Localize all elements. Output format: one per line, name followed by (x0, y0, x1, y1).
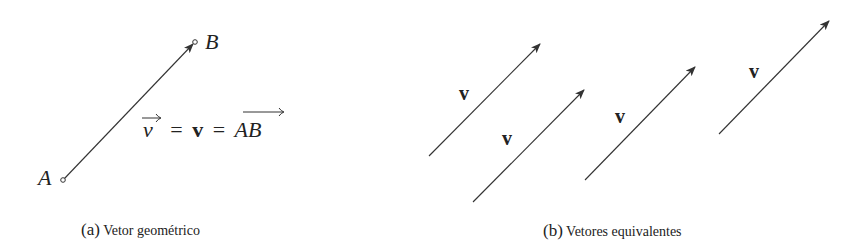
vector-ab (61, 40, 198, 183)
point-b-marker (193, 40, 198, 45)
equivalent-vectors (429, 21, 829, 202)
equation-rhs: AB (235, 117, 262, 142)
vector-3 (585, 67, 695, 180)
diagram-canvas (0, 0, 860, 247)
point-a-label: A (38, 167, 51, 189)
caption-b: (b) Vetores equivalentes (543, 221, 682, 241)
vector-1 (429, 44, 540, 156)
vector-4 (719, 21, 829, 134)
vector-equation: v = v = AB (143, 119, 262, 141)
point-b-label: B (205, 31, 218, 53)
vector-3-label: v (615, 106, 625, 126)
vector-1-label: v (459, 83, 469, 103)
vector-2 (473, 90, 584, 202)
vector-2-label: v (502, 128, 512, 148)
equation-lhs: v (143, 117, 153, 142)
caption-a: (a) Vetor geométrico (81, 220, 200, 240)
equation-middle: v (192, 117, 203, 142)
point-a-marker (61, 178, 66, 183)
vector-4-label: v (749, 61, 759, 81)
